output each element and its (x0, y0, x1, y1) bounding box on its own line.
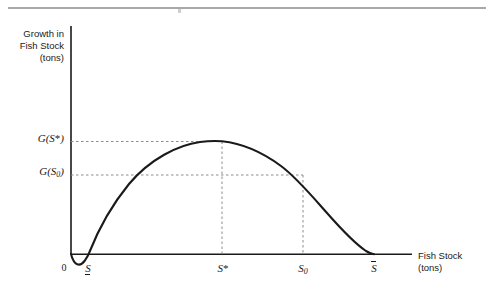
star-glyph: * (223, 262, 229, 274)
x-tick-label-s-overbar: S (363, 262, 385, 274)
x-tick-label-s-underbar: S (78, 262, 98, 274)
overbar-rule (371, 261, 376, 262)
y-axis-title: Growth in Fish Stock (tons) (6, 28, 64, 64)
x-tick-label-s-zero: S0 (292, 262, 314, 276)
y-tick-label-g-s-zero-text: G(S0) (39, 165, 64, 177)
subscript-zero-glyph: 0 (304, 267, 308, 276)
y-tick-label-g-s-star-text: G(S*) (38, 132, 64, 144)
x-tick-label-s-star: S* (212, 262, 234, 274)
x-tick-label-origin: 0 (57, 262, 71, 273)
y-tick-label-g-s-zero: G(S0) (0, 165, 64, 179)
x-axis-title: Fish Stock (tons) (418, 250, 488, 274)
s-overbar-glyph: S (371, 262, 377, 274)
s-underbar-glyph: S (85, 262, 91, 274)
figure-canvas: Growth in Fish Stock (tons) Fish Stock (… (0, 0, 491, 301)
underbar-rule (85, 274, 90, 275)
y-tick-label-g-s-star: G(S*) (0, 132, 64, 144)
